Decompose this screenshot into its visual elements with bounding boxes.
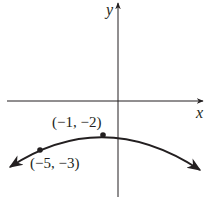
parabola-graph: y x (−1, −2) (−5, −3) [0, 0, 214, 200]
x-axis-label: x [195, 104, 203, 121]
y-axis-label: y [104, 1, 114, 19]
point-label: (−5, −3) [30, 155, 79, 172]
vertex-point [100, 132, 106, 138]
vertex-label: (−1, −2) [52, 114, 101, 131]
point-marker [37, 147, 43, 153]
